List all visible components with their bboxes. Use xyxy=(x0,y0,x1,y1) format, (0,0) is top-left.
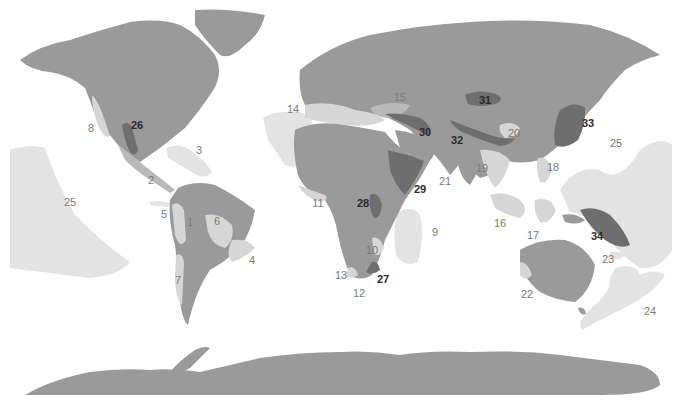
region-label-17[interactable]: 17 xyxy=(527,230,539,241)
region-label-20[interactable]: 20 xyxy=(508,128,520,139)
landmass-antarctica xyxy=(25,351,660,395)
region-label-1[interactable]: 1 xyxy=(187,217,193,228)
landmass-tasmania xyxy=(578,308,586,315)
region-label-31[interactable]: 31 xyxy=(479,95,491,106)
region-label-18[interactable]: 18 xyxy=(547,162,559,173)
region-label-15[interactable]: 15 xyxy=(394,92,406,103)
region-3-caribbean xyxy=(166,145,212,176)
region-label-27[interactable]: 27 xyxy=(377,274,389,285)
region-label-34[interactable]: 34 xyxy=(591,231,603,242)
region-label-22[interactable]: 22 xyxy=(521,289,533,300)
region-label-13[interactable]: 13 xyxy=(335,270,347,281)
region-label-8[interactable]: 8 xyxy=(88,123,94,134)
region-label-9[interactable]: 9 xyxy=(432,227,438,238)
landmass-north-america xyxy=(20,21,219,162)
region-label-28[interactable]: 28 xyxy=(357,198,369,209)
region-label-6[interactable]: 6 xyxy=(214,216,220,227)
region-label-19[interactable]: 19 xyxy=(476,163,488,174)
region-label-7[interactable]: 7 xyxy=(175,275,181,286)
region-label-11[interactable]: 11 xyxy=(312,198,323,209)
region-label-25-east-pacific[interactable]: 25 xyxy=(64,197,76,208)
region-label-25-west-pacific[interactable]: 25 xyxy=(610,138,622,149)
region-label-16[interactable]: 16 xyxy=(494,218,506,229)
region-label-10[interactable]: 10 xyxy=(366,245,378,256)
region-label-23[interactable]: 23 xyxy=(602,254,614,265)
world-map xyxy=(0,0,680,404)
landmass-antarctic-peninsula xyxy=(170,347,210,373)
landmass-new-guinea xyxy=(562,214,585,223)
region-label-21[interactable]: 21 xyxy=(439,176,451,187)
region-25-east-pacific xyxy=(10,146,130,278)
region-5-galapagos xyxy=(150,201,170,207)
region-label-3[interactable]: 3 xyxy=(196,145,202,156)
region-label-33[interactable]: 33 xyxy=(582,118,594,129)
region-label-30[interactable]: 30 xyxy=(419,127,431,138)
region-label-12[interactable]: 12 xyxy=(353,288,365,299)
region-label-29[interactable]: 29 xyxy=(414,184,426,195)
region-label-5[interactable]: 5 xyxy=(161,209,167,220)
region-label-2[interactable]: 2 xyxy=(148,175,154,186)
region-label-24[interactable]: 24 xyxy=(644,306,656,317)
region-label-26[interactable]: 26 xyxy=(131,120,143,131)
region-label-14[interactable]: 14 xyxy=(287,104,299,115)
region-16-sundaland xyxy=(490,193,525,218)
region-17-wallacea xyxy=(535,199,556,223)
region-label-4[interactable]: 4 xyxy=(249,255,255,266)
region-9-madagascar xyxy=(394,209,422,264)
region-label-32[interactable]: 32 xyxy=(451,135,463,146)
